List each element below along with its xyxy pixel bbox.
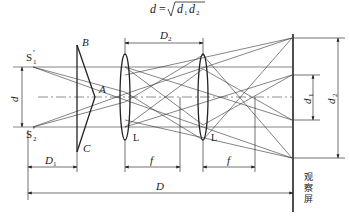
label-f2: f (227, 154, 232, 166)
label-prism-C: C (83, 142, 91, 154)
label-screen-3: 屏 (304, 194, 313, 204)
formula-d1: d (177, 2, 184, 16)
label-screen-2: 察 (304, 182, 313, 193)
label-D: D (155, 180, 164, 192)
label-f1: f (150, 154, 155, 166)
svg-text:1: 1 (307, 93, 315, 97)
formula-d1-sub: 1 (184, 9, 188, 17)
label-lens2: L (211, 132, 217, 143)
svg-text:2: 2 (168, 35, 172, 43)
svg-text:2: 2 (33, 135, 37, 143)
label-D2: D (159, 29, 168, 41)
svg-text:2: 2 (331, 93, 339, 97)
formula: d = d 1 d 2 (150, 2, 205, 17)
formula-d2-sub: 2 (196, 9, 200, 17)
label-source1: S (26, 51, 32, 63)
label-prism-A: A (98, 83, 106, 95)
svg-text:′: ′ (33, 125, 35, 135)
formula-d2: d (189, 2, 196, 16)
formula-lhs: d (150, 2, 157, 16)
label-d: d (8, 96, 20, 102)
label-prism-B: B (82, 36, 89, 48)
label-screen-1: 观 (304, 172, 313, 182)
svg-text:1: 1 (53, 160, 57, 168)
svg-text:1: 1 (33, 58, 37, 66)
light-rays (13, 38, 292, 158)
labels: S ′ 1 S ′ 2 B A C L L d d 1 d 2 D 1 D 2 … (8, 29, 339, 204)
label-lens1: L (133, 132, 139, 143)
label-d1: d (301, 98, 313, 104)
fresnel-biprism-diagram: d = d 1 d 2 (0, 0, 350, 220)
label-D1: D (44, 154, 53, 166)
label-d2: d (325, 98, 337, 104)
svg-text:′: ′ (33, 48, 35, 58)
label-source2: S (26, 128, 32, 140)
formula-equals: = (159, 2, 166, 16)
biprism (77, 45, 95, 152)
